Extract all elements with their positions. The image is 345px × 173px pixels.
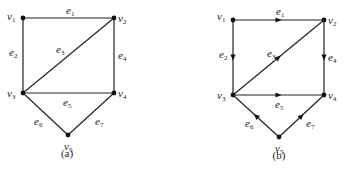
vertex-dot-icon (21, 16, 26, 21)
edge-label-e6: e6 (245, 117, 254, 131)
vertex-dot-icon (231, 18, 236, 23)
edge-e3: e3 (233, 20, 324, 95)
arrowhead-icon (321, 55, 326, 61)
edge-e6: e6 (23, 93, 68, 135)
edge-e5: e5 (233, 92, 324, 112)
vertex-label-v3: v3 (217, 89, 226, 103)
edge-e2: e2 (219, 20, 236, 95)
directed-graph-b: e1e2e3e4e5e6e7v1v2v3v4v5(b) (217, 5, 337, 162)
vertex-label-v1: v1 (7, 10, 16, 24)
edge-e4: e4 (114, 18, 127, 93)
vertex-dot-icon (322, 18, 327, 23)
edge-label-e1: e1 (276, 5, 285, 19)
edge-e3: e3 (23, 18, 114, 93)
vertex-dot-icon (21, 91, 26, 96)
vertex-label-v4: v4 (328, 89, 337, 103)
edge-label-e3: e3 (56, 43, 65, 57)
graph-figure: e1e2e3e4e5e6e7v1v2v3v4v5(a) e1e2e3e4e5e6… (0, 0, 345, 173)
vertex-dot-icon (231, 93, 236, 98)
arrowhead-icon (230, 55, 235, 61)
edge-e2: e2 (9, 18, 23, 93)
edge-label-e3: e3 (267, 47, 276, 61)
undirected-graph-a: e1e2e3e4e5e6e7v1v2v3v4v5(a) (7, 4, 127, 160)
caption-a: (a) (61, 147, 74, 160)
edge-label-e1: e1 (66, 4, 75, 18)
vertex-label-v2: v2 (328, 14, 337, 28)
edge-line (23, 93, 68, 135)
vertex-label-v2: v2 (118, 12, 127, 26)
vertex-dot-icon (322, 93, 327, 98)
edge-e5: e5 (23, 93, 114, 110)
caption-b: (b) (273, 149, 286, 162)
edge-e7: e7 (68, 93, 114, 135)
arrowhead-icon (276, 92, 282, 97)
vertex-label-v1: v1 (217, 10, 226, 24)
edge-line (68, 93, 114, 135)
edge-label-e5: e5 (63, 96, 72, 110)
vertex-label-v4: v4 (118, 87, 127, 101)
vertex-dot-icon (66, 133, 71, 138)
edge-label-e5: e5 (275, 98, 284, 112)
edge-label-e4: e4 (328, 51, 337, 65)
vertex-v1: v1 (217, 10, 235, 24)
edge-line (23, 18, 114, 93)
vertex-dot-icon (277, 135, 282, 140)
edge-label-e2: e2 (219, 48, 228, 62)
edge-e4: e4 (321, 20, 336, 95)
edge-e1: e1 (23, 4, 114, 18)
edge-label-e2: e2 (9, 46, 18, 60)
edge-label-e4: e4 (118, 49, 127, 63)
edge-e6: e6 (233, 95, 279, 137)
edge-e7: e7 (279, 95, 324, 137)
edge-label-e6: e6 (34, 115, 43, 129)
edge-label-e7: e7 (95, 115, 104, 129)
vertex-label-v3: v3 (7, 87, 16, 101)
vertex-dot-icon (112, 91, 117, 96)
edge-label-e7: e7 (306, 117, 315, 131)
vertex-dot-icon (112, 16, 117, 21)
edge-e1: e1 (233, 5, 324, 23)
